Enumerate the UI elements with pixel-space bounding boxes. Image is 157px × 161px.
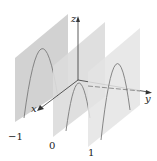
- plane-label-neg1: −1: [8, 131, 23, 142]
- z-axis-label: z: [70, 13, 77, 24]
- y-axis-label: y: [144, 93, 151, 104]
- plane-label-1: 1: [88, 147, 94, 158]
- z-arrow-icon: [76, 16, 80, 22]
- x-axis-label: x: [31, 103, 37, 114]
- diagram-canvas: z x y −1 0 1: [0, 0, 157, 161]
- plane-label-0: 0: [49, 140, 55, 151]
- trace-planes-diagram: z x y −1 0 1: [0, 0, 157, 161]
